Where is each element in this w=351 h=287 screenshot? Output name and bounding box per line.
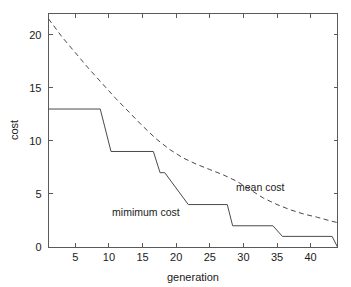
y-tick-label: 5 — [35, 188, 41, 200]
chart-figure: 510152025303540 05101520 generation cost… — [0, 0, 351, 287]
y-tick-label: 15 — [29, 82, 41, 94]
x-axis-ticks — [75, 14, 310, 248]
y-tick-label: 0 — [35, 241, 41, 253]
x-tick-label: 20 — [170, 251, 182, 263]
mean-cost-annotation: mean cost — [236, 181, 285, 193]
mean-cost-line — [49, 19, 338, 223]
plot-frame — [49, 14, 338, 248]
y-axis-ticks — [49, 35, 338, 247]
y-tick-label: 20 — [29, 29, 41, 41]
x-tick-label: 35 — [271, 251, 283, 263]
x-axis-tick-labels: 510152025303540 — [72, 251, 316, 263]
x-tick-label: 5 — [72, 251, 78, 263]
x-tick-label: 40 — [304, 251, 316, 263]
cost-vs-generation-chart: 510152025303540 05101520 generation cost… — [0, 0, 351, 287]
x-tick-label: 15 — [136, 251, 148, 263]
x-tick-label: 25 — [204, 251, 216, 263]
x-tick-label: 10 — [103, 251, 115, 263]
x-axis-label: generation — [167, 271, 219, 283]
y-tick-label: 10 — [29, 135, 41, 147]
y-axis-tick-labels: 05101520 — [29, 29, 41, 253]
x-tick-label: 30 — [237, 251, 249, 263]
y-axis-label: cost — [8, 120, 20, 140]
minimum-cost-line — [49, 109, 338, 247]
minimum-cost-annotation: mimimum cost — [112, 206, 180, 218]
